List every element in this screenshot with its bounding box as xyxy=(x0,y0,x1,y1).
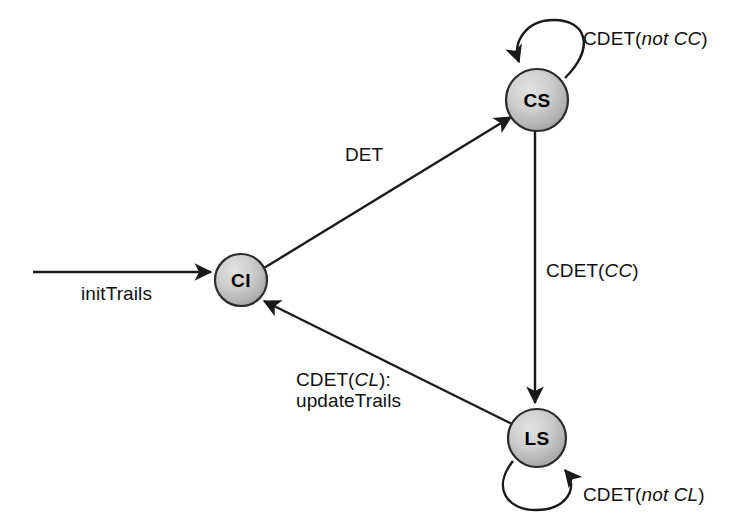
edge-cs-self-loop xyxy=(517,20,584,78)
edge-label-det: DET xyxy=(345,144,383,165)
node-ci-label: CI xyxy=(231,270,251,291)
node-ls-label: LS xyxy=(524,428,549,449)
edge-label-ls-to-ci-prefix: CDET( xyxy=(296,369,355,390)
edge-label-cs-self-loop: CDET(not CC) xyxy=(583,28,708,49)
edge-label-ls-self-loop: CDET(not CL) xyxy=(583,484,705,505)
edge-label-ls-self-condition: not CL xyxy=(642,484,699,505)
edge-label-cs-to-ls: CDET(CC) xyxy=(546,260,639,281)
node-cs[interactable]: CS xyxy=(506,69,568,131)
edge-label-cs-to-ls-suffix: ) xyxy=(632,260,638,281)
node-ci[interactable]: CI xyxy=(215,254,267,306)
edge-label-cs-self-condition: not CC xyxy=(642,28,702,49)
edge-label-ls-to-ci-suffix: ): xyxy=(379,369,391,390)
edge-ci-to-cs xyxy=(264,117,511,268)
edge-ls-self-loop xyxy=(503,461,571,510)
state-diagram: CS CI LS initTrails DET CDET(not CC) CDE… xyxy=(0,0,749,530)
edge-label-cs-to-ls-condition: CC xyxy=(605,260,633,281)
edge-label-init-trails: initTrails xyxy=(81,283,152,304)
edge-label-ls-to-ci: CDET(CL): updateTrails xyxy=(296,369,401,412)
edge-label-ls-to-ci-condition: CL xyxy=(355,369,380,390)
edge-label-cs-self-suffix: ) xyxy=(701,28,707,49)
edge-label-ls-to-ci-action: updateTrails xyxy=(296,390,401,411)
node-cs-label: CS xyxy=(523,90,550,111)
edge-label-cs-self-prefix: CDET( xyxy=(583,28,642,49)
edge-label-ls-self-suffix: ) xyxy=(698,484,704,505)
edge-label-ls-self-prefix: CDET( xyxy=(583,484,642,505)
edge-label-ls-to-ci-line1: CDET(CL): xyxy=(296,369,401,390)
edge-label-cs-to-ls-prefix: CDET( xyxy=(546,260,605,281)
node-ls[interactable]: LS xyxy=(508,409,566,467)
